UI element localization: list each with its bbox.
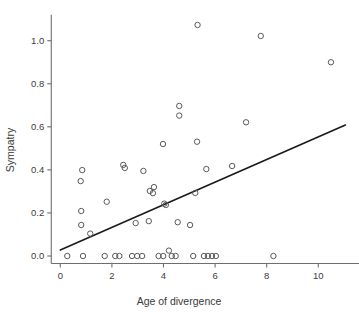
data-point bbox=[102, 253, 107, 258]
x-tick-label: 6 bbox=[212, 270, 217, 281]
data-point bbox=[173, 253, 178, 258]
data-point bbox=[79, 222, 84, 227]
data-point bbox=[146, 218, 151, 223]
data-point bbox=[177, 103, 182, 108]
data-point bbox=[328, 60, 333, 65]
x-tick-label: 10 bbox=[313, 270, 324, 281]
plot-area bbox=[60, 22, 345, 258]
data-point bbox=[204, 166, 209, 171]
x-axis-ticks: 0246810 bbox=[58, 264, 324, 281]
data-point bbox=[78, 178, 83, 183]
y-tick-label: 0.8 bbox=[31, 78, 44, 89]
regression-line bbox=[60, 125, 345, 250]
data-point bbox=[65, 253, 70, 258]
data-point bbox=[243, 120, 248, 125]
data-point bbox=[187, 222, 192, 227]
y-axis-ticks: 0.00.20.40.60.81.0 bbox=[31, 35, 51, 261]
data-point bbox=[88, 231, 93, 236]
x-tick-label: 0 bbox=[58, 270, 63, 281]
data-point bbox=[271, 253, 276, 258]
y-tick-label: 0.0 bbox=[31, 250, 44, 261]
data-point bbox=[177, 113, 182, 118]
data-point bbox=[79, 208, 84, 213]
data-point bbox=[141, 168, 146, 173]
scatter-plot-figure: 0.00.20.40.60.81.0 0246810 Age of diverg… bbox=[0, 0, 359, 318]
data-point bbox=[195, 22, 200, 27]
y-tick-label: 0.2 bbox=[31, 207, 44, 218]
y-tick-label: 1.0 bbox=[31, 35, 44, 46]
data-point bbox=[213, 253, 218, 258]
y-axis-title: Sympatry bbox=[4, 127, 16, 172]
data-point bbox=[229, 163, 234, 168]
x-tick-label: 8 bbox=[264, 270, 269, 281]
data-point bbox=[258, 33, 263, 38]
data-point bbox=[133, 220, 138, 225]
data-point bbox=[80, 167, 85, 172]
data-point bbox=[175, 220, 180, 225]
x-tick-label: 4 bbox=[161, 270, 166, 281]
data-point bbox=[104, 199, 109, 204]
data-point bbox=[166, 248, 171, 253]
data-point bbox=[129, 253, 134, 258]
chart-canvas: 0.00.20.40.60.81.0 0246810 Age of diverg… bbox=[0, 0, 359, 318]
y-tick-label: 0.6 bbox=[31, 121, 44, 132]
data-point bbox=[190, 253, 195, 258]
x-tick-label: 2 bbox=[109, 270, 114, 281]
data-point bbox=[160, 141, 165, 146]
data-point bbox=[194, 139, 199, 144]
y-tick-label: 0.4 bbox=[31, 164, 44, 175]
x-axis-title: Age of divergence bbox=[137, 295, 222, 307]
data-point bbox=[80, 253, 85, 258]
